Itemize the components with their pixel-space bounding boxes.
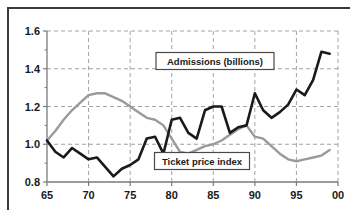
- line-chart: 0.81.01.21.41.6 6570758085909500 Admissi…: [9, 9, 352, 212]
- x-tick-label: 80: [166, 189, 178, 201]
- x-tick-label: 95: [290, 189, 302, 201]
- y-tick-label: 1.6: [25, 25, 40, 37]
- admissions-legend-box: Admissions (billions): [156, 53, 274, 70]
- admissions-legend-label: Admissions (billions): [167, 56, 263, 67]
- x-tick-label: 65: [41, 189, 53, 201]
- x-tick-label: 90: [249, 189, 261, 201]
- chart-frame: 0.81.01.21.41.6 6570758085909500 Admissi…: [7, 7, 350, 210]
- ticket-price-legend-box: Ticket price index: [155, 153, 250, 170]
- y-tick-label: 1.0: [25, 138, 40, 150]
- x-tick-label: 70: [82, 189, 94, 201]
- ticket-price-legend-label: Ticket price index: [162, 156, 243, 167]
- y-tick-label: 1.2: [25, 101, 40, 113]
- chart-canvas: 0.81.01.21.41.6 6570758085909500 Admissi…: [9, 9, 352, 212]
- x-tick-label: 75: [124, 189, 136, 201]
- x-tick-label: 85: [207, 189, 219, 201]
- x-tick-label: 00: [332, 189, 344, 201]
- y-tick-label: 0.8: [25, 176, 40, 188]
- y-tick-label: 1.4: [25, 63, 41, 75]
